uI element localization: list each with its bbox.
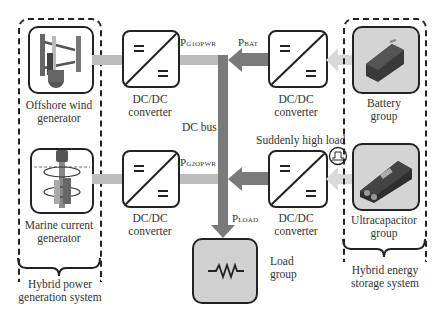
dcdc-converter-symbol-icon bbox=[124, 152, 178, 206]
load-group-box bbox=[192, 238, 258, 304]
p-load-label: PLOAD bbox=[232, 212, 258, 224]
hybrid-power-generation-title: Hybrid power generation system bbox=[5, 278, 115, 304]
dcdc-converter-battery bbox=[268, 30, 328, 88]
dcdc-converter-ultracapacitor bbox=[268, 150, 328, 208]
battery-group-label: Battery group bbox=[340, 97, 428, 123]
g2-to-bus-flow bbox=[178, 174, 220, 184]
battery-to-bus-arrowhead bbox=[228, 48, 242, 72]
dc-bus bbox=[218, 55, 228, 227]
marine-current-generator-icon-box bbox=[30, 148, 94, 214]
p-g2opwr-label: PG2OPWR bbox=[180, 156, 216, 168]
offshore-wind-generator-label: Offshore wind generator bbox=[14, 99, 104, 125]
marine-current-generator-label: Marine current generator bbox=[14, 219, 104, 245]
battery-to-bus-flow bbox=[240, 53, 268, 66]
marine-current-turbine-icon bbox=[32, 150, 92, 212]
dcdc-converter-generation-2-label: DC/DC converter bbox=[112, 212, 188, 238]
battery-pack-icon bbox=[354, 28, 418, 92]
ultracapacitor-group-icon-box bbox=[352, 143, 420, 211]
p-bat-label: PBAT bbox=[238, 36, 258, 48]
ultracap-to-bus-flow bbox=[240, 172, 268, 185]
dcdc-converter-generation-1 bbox=[122, 30, 180, 88]
resistor-icon bbox=[194, 240, 256, 302]
battery-group-icon-box bbox=[352, 26, 420, 94]
wind-to-converter-flow bbox=[92, 55, 124, 65]
hybrid-energy-storage-title: Hybrid energy storage system bbox=[330, 264, 440, 290]
dcdc-converter-symbol-icon bbox=[124, 32, 178, 86]
dcdc-converter-symbol-icon bbox=[270, 32, 326, 86]
dcdc-converter-ultracapacitor-label: DC/DC converter bbox=[258, 212, 334, 238]
dcdc-converter-symbol-icon bbox=[270, 152, 326, 206]
vertical-axis-wind-turbine-icon bbox=[30, 28, 92, 92]
right-group-brace bbox=[341, 237, 427, 259]
bus-to-load-arrowhead bbox=[211, 225, 235, 239]
dcdc-converter-generation-2 bbox=[122, 150, 180, 208]
p-g1opwr-label: PG1OPWR bbox=[180, 36, 216, 48]
dcdc-converter-generation-1-label: DC/DC converter bbox=[112, 93, 188, 119]
dc-bus-label: DC bus bbox=[182, 121, 217, 134]
offshore-wind-generator-icon-box bbox=[28, 26, 94, 94]
dcdc-converter-battery-label: DC/DC converter bbox=[258, 93, 334, 119]
marine-to-converter-flow bbox=[92, 174, 124, 184]
ultracap-to-bus-arrowhead bbox=[228, 167, 242, 191]
left-group-brace bbox=[16, 256, 102, 278]
g1-to-bus-flow bbox=[178, 55, 220, 65]
load-group-label: Load group bbox=[270, 255, 297, 281]
ultracapacitor-group-label: Ultracapacitor group bbox=[338, 214, 430, 240]
ultracapacitor-module-icon bbox=[354, 145, 418, 209]
